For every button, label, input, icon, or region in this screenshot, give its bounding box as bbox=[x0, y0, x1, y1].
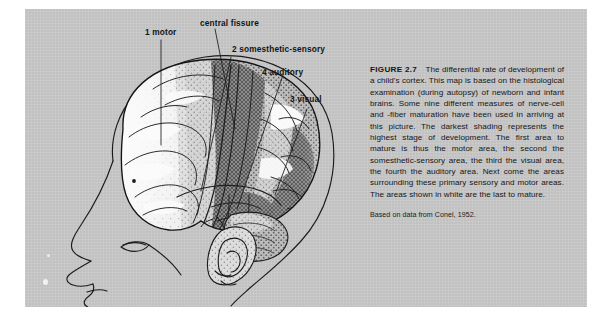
caption-figure-number: FIGURE 2.7 bbox=[370, 65, 426, 74]
callout-label-central-fissure: central fissure bbox=[200, 19, 259, 27]
callout-label-somesthetic-sensory: 2 somesthetic-sensory bbox=[232, 45, 325, 53]
figure-caption: FIGURE 2.7 The differential rate of deve… bbox=[370, 64, 564, 220]
callout-label-visual: 3 visual bbox=[290, 95, 322, 103]
caption-text: The differential rate of development of … bbox=[370, 65, 564, 199]
ear bbox=[208, 227, 257, 285]
frontal-lobe-marker-dot bbox=[132, 179, 136, 183]
callout-label-auditory: 4 auditory bbox=[262, 68, 303, 76]
caption-source-note: Based on data from Conel, 1952. bbox=[370, 211, 564, 220]
caption-paragraph: FIGURE 2.7 The differential rate of deve… bbox=[370, 64, 564, 200]
figure-page: 1 motor central fissure 2 somesthetic-se… bbox=[0, 0, 609, 327]
callout-label-motor: 1 motor bbox=[145, 28, 176, 36]
